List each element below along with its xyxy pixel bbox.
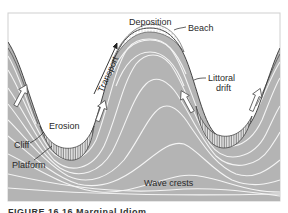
label-platform: Platform — [12, 160, 46, 170]
label-deposition: Deposition — [129, 17, 172, 27]
label-littoral-drift-2: drift — [216, 83, 232, 93]
coastal-processes-diagram: Deposition Beach Transport Littoral drif… — [0, 0, 288, 213]
label-littoral-drift-1: Littoral — [208, 73, 235, 83]
label-erosion: Erosion — [49, 121, 80, 131]
figure-caption: FIGURE 16.16 Marginal Idiom... — [8, 207, 156, 213]
label-wave-crests: Wave crests — [144, 178, 194, 188]
label-beach: Beach — [188, 23, 214, 33]
label-cliff: Cliff — [14, 140, 30, 150]
